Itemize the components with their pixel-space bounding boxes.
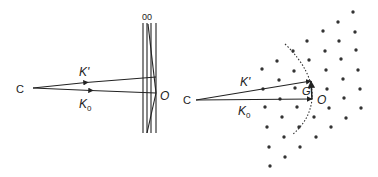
lattice-point bbox=[337, 39, 340, 42]
lattice-point bbox=[359, 106, 362, 109]
lattice-point bbox=[265, 125, 268, 128]
diffraction-diagram: C K' K0 O 00 C K' K0 G O bbox=[0, 0, 378, 177]
lattice-point bbox=[307, 58, 310, 61]
lattice-point bbox=[339, 57, 342, 60]
lattice-point bbox=[263, 105, 266, 108]
k-zero-ray bbox=[33, 88, 156, 93]
lattice-point bbox=[305, 39, 308, 42]
k-zero-vector bbox=[196, 99, 312, 100]
lattice-point bbox=[260, 67, 263, 70]
source-label-right: C bbox=[183, 94, 191, 106]
lattice-point bbox=[327, 106, 330, 109]
lattice-point bbox=[314, 135, 317, 138]
lattice-point bbox=[298, 145, 301, 148]
lattice-point bbox=[342, 96, 345, 99]
k-prime-label: K' bbox=[79, 65, 90, 79]
lattice-point bbox=[354, 48, 357, 51]
lattice-point bbox=[336, 20, 339, 23]
lattice-point bbox=[325, 87, 328, 90]
lattice-point bbox=[280, 115, 283, 118]
lattice-point bbox=[358, 87, 361, 90]
g-vector bbox=[311, 81, 312, 99]
lattice-point bbox=[323, 49, 326, 52]
lattice-point bbox=[293, 86, 296, 89]
k-zero-label: K0 bbox=[79, 97, 92, 113]
lattice-point bbox=[275, 59, 278, 62]
origin-label-right: O bbox=[317, 93, 326, 107]
lattice-point bbox=[283, 155, 286, 158]
lattice-point bbox=[277, 78, 280, 81]
lattice-point bbox=[295, 105, 298, 108]
lattice-point bbox=[291, 49, 294, 52]
lattice-point bbox=[356, 68, 359, 71]
g-label: G bbox=[302, 85, 311, 97]
lattice-point bbox=[329, 125, 332, 128]
lattice-point bbox=[292, 69, 295, 72]
k-prime-ray bbox=[33, 77, 156, 88]
lattice-point bbox=[312, 115, 315, 118]
lattice-point bbox=[321, 29, 324, 32]
lattice-point bbox=[267, 145, 270, 148]
source-label: C bbox=[16, 83, 24, 95]
lattice-point bbox=[324, 68, 327, 71]
origin-label: O bbox=[160, 89, 169, 103]
k-zero-label-right: K0 bbox=[238, 104, 251, 120]
lattice-point bbox=[344, 116, 347, 119]
right-panel: C K' K0 G O bbox=[183, 10, 363, 167]
lattice-point bbox=[341, 77, 344, 80]
lattice-point bbox=[282, 135, 285, 138]
left-panel: C K' K0 O 00 bbox=[16, 12, 169, 133]
lattice-point bbox=[297, 125, 300, 128]
lattice-point bbox=[268, 164, 271, 167]
planes-label: 00 bbox=[142, 12, 152, 22]
lattice-point bbox=[351, 10, 354, 13]
lattice-point bbox=[353, 30, 356, 33]
k-prime-label-right: K' bbox=[240, 75, 251, 89]
k-prime-vector bbox=[196, 81, 311, 100]
